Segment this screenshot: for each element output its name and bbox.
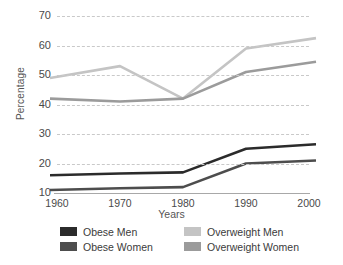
x-axis-title: Years: [0, 208, 343, 220]
legend-label: Overweight Men: [207, 226, 283, 238]
y-tick-label: 60: [23, 39, 51, 51]
legend-item: Obese Men: [60, 224, 180, 239]
gridline: [57, 16, 309, 17]
y-tick-label: 40: [23, 98, 51, 110]
chart-legend: Obese MenOverweight MenObese WomenOverwe…: [60, 224, 310, 254]
line-chart: Percentage 10203040506070 19601970198019…: [0, 0, 343, 265]
y-tick-label: 50: [23, 68, 51, 80]
y-tick-label: 20: [23, 157, 51, 169]
x-axis-line: [54, 193, 310, 194]
series-line: [50, 144, 316, 175]
legend-swatch: [184, 242, 201, 251]
legend-swatch: [184, 227, 201, 236]
legend-swatch: [60, 242, 77, 251]
gridline: [57, 46, 309, 47]
gridline: [57, 164, 309, 165]
legend-label: Obese Women: [83, 241, 153, 253]
y-tick-label: 70: [23, 9, 51, 21]
gridline: [57, 105, 309, 106]
legend-label: Obese Men: [83, 226, 137, 238]
gridline: [57, 75, 309, 76]
legend-item: Obese Women: [60, 239, 180, 254]
legend-swatch: [60, 227, 77, 236]
legend-label: Overweight Women: [207, 241, 299, 253]
series-line: [50, 62, 316, 102]
legend-item: Overweight Women: [184, 239, 314, 254]
gridline: [57, 134, 309, 135]
plot-area: [57, 16, 309, 193]
legend-item: Overweight Men: [184, 224, 314, 239]
y-tick-label: 30: [23, 127, 51, 139]
